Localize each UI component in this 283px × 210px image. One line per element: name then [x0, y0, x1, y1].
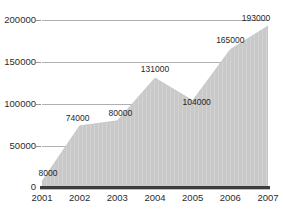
y-axis-label-zero: 0 — [0, 181, 36, 192]
y-axis-label: 50000 — [0, 140, 36, 151]
x-axis-label: 2006 — [220, 192, 241, 203]
x-axis-label: 2003 — [107, 192, 128, 203]
data-point-label: 80000 — [109, 108, 133, 118]
area-chart: 50000100000150000200000 0 20012002200320… — [0, 0, 283, 210]
y-axis-label: 100000 — [0, 98, 36, 109]
y-axis-tick — [36, 62, 41, 63]
x-axis-label: 2001 — [31, 192, 52, 203]
y-axis-tick — [36, 104, 41, 105]
x-axis-line-shadow — [40, 189, 270, 190]
data-point-label: 74000 — [66, 113, 90, 123]
y-axis-label: 150000 — [0, 56, 36, 67]
data-point-label: 165000 — [216, 35, 244, 45]
data-point-label: 193000 — [242, 13, 270, 23]
x-axis-label: 2004 — [144, 192, 165, 203]
data-point-label: 104000 — [182, 97, 210, 107]
y-axis-tick — [36, 146, 41, 147]
data-point-label: 131000 — [141, 64, 169, 74]
x-axis-label: 2005 — [182, 192, 203, 203]
y-axis-tick — [36, 20, 41, 21]
x-axis-label: 2007 — [257, 192, 278, 203]
x-axis-label: 2002 — [69, 192, 90, 203]
y-axis-label: 200000 — [0, 14, 36, 25]
data-point-label: 8000 — [39, 168, 58, 178]
